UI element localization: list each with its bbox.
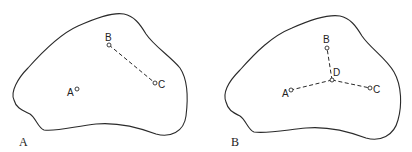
connector-d-a	[291, 80, 332, 90]
point-b	[107, 43, 111, 47]
panel-a: B C A A	[13, 14, 187, 149]
diagram-canvas: B C A A B D A C B	[0, 0, 412, 152]
point-label-a: A	[282, 88, 289, 99]
panel-label-a: A	[19, 135, 28, 149]
connector-d-b	[327, 48, 332, 80]
point-c	[368, 86, 372, 90]
point-c	[153, 81, 157, 85]
point-label-c: C	[158, 79, 165, 90]
point-d	[330, 78, 334, 82]
point-label-b: B	[105, 32, 112, 43]
connector-d-c	[332, 80, 370, 88]
point-a	[75, 87, 79, 91]
panel-b: B D A C B	[225, 16, 401, 149]
panel-label-b: B	[231, 135, 239, 149]
region-outline-b	[225, 16, 401, 140]
point-label-b: B	[323, 34, 330, 45]
point-b	[325, 46, 329, 50]
point-label-d: D	[333, 67, 340, 78]
point-label-c: C	[373, 84, 380, 95]
connector-b-c	[109, 45, 155, 83]
point-a	[289, 88, 293, 92]
region-outline-a	[13, 14, 187, 136]
point-label-a: A	[67, 87, 74, 98]
